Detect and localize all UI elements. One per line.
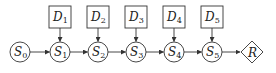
state-node-s0: S0 bbox=[10, 42, 30, 62]
decision-node-d1: D1 bbox=[49, 6, 71, 28]
state-node-s3: S3 bbox=[126, 42, 146, 62]
state-node-s1: S1 bbox=[50, 42, 70, 62]
decision-node-d4: D4 bbox=[163, 6, 185, 28]
decision-node-d2: D2 bbox=[87, 6, 109, 28]
influence-diagram: S0 S1 S2 S3 S4 S5 D1 D2 D3 D4 D5 bbox=[0, 0, 276, 73]
svg-text:R: R bbox=[247, 46, 257, 60]
state-node-s5: S5 bbox=[202, 42, 222, 62]
state-node-s4: S4 bbox=[164, 42, 184, 62]
state-node-s2: S2 bbox=[88, 42, 108, 62]
decision-edges bbox=[60, 28, 212, 42]
decision-node-d3: D3 bbox=[125, 6, 147, 28]
decision-node-d5: D5 bbox=[201, 6, 223, 28]
reward-node-r: R bbox=[241, 41, 263, 63]
